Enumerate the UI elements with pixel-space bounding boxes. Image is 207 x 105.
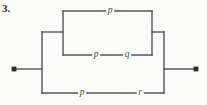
bottom-branch-label-r: r [137, 88, 144, 98]
middle-branch-label-p: p [92, 50, 100, 60]
figure-canvas: 3. p p q p [0, 0, 207, 105]
bottom-branch-label-p: p [78, 88, 86, 98]
circuit-diagram [0, 0, 207, 105]
middle-branch-label-q: q [123, 50, 131, 60]
top-branch-label-p: p [106, 6, 114, 16]
left-terminal-dot [12, 67, 17, 72]
right-terminal-dot [194, 67, 199, 72]
